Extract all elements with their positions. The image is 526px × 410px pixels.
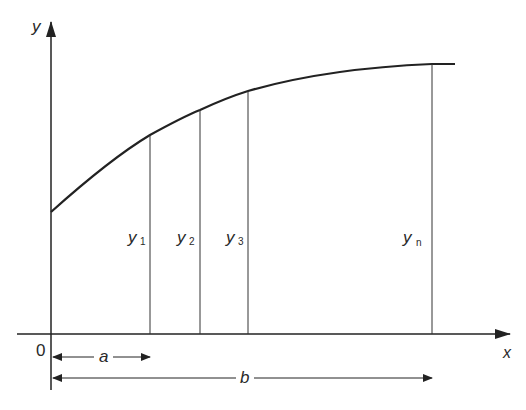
integration-diagram: y x 0 a b y 1 y 2 y 3 y n [0,0,526,410]
dimension-b-label: b [240,368,249,387]
svg-text:n: n [416,237,422,248]
x-axis-label: x [502,344,512,361]
ordinate-label-yn: y n [402,228,422,248]
dimension-a-label: a [99,347,108,366]
svg-text:2: 2 [189,236,195,247]
svg-text:y: y [127,228,138,247]
svg-text:1: 1 [140,236,146,247]
function-curve [51,64,455,212]
svg-text:3: 3 [238,236,244,247]
ordinate-label-y1: y 1 [127,228,146,247]
svg-text:y: y [176,228,187,247]
origin-label: 0 [36,341,45,360]
ordinate-label-y3: y 3 [225,228,244,247]
ordinate-label-y2: y 2 [176,228,195,247]
ordinate-lines [150,64,432,334]
y-axis-label: y [31,17,42,36]
svg-text:y: y [402,228,413,247]
svg-text:y: y [225,228,236,247]
